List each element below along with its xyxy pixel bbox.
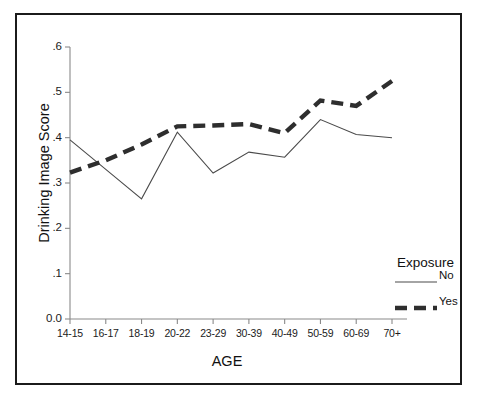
chart-figure: Drinking Image Score AGE 0.0.1.2.3.4.5.6… (15, 13, 462, 385)
legend-title: Exposure (397, 255, 465, 270)
legend-rows: NoYes (395, 270, 465, 322)
series-line-no (70, 120, 392, 199)
y-tick-label: .4 (24, 132, 62, 144)
series-group (70, 81, 392, 199)
y-tick-label: .6 (24, 41, 62, 53)
legend: Exposure NoYes (395, 255, 465, 322)
x-tick-label: 70+ (369, 327, 415, 339)
y-tick-label: .3 (24, 177, 62, 189)
legend-label: Yes (439, 295, 458, 307)
y-tick-label: .2 (24, 222, 62, 234)
legend-entry: No (395, 270, 465, 296)
y-tick-label: 0.0 (24, 313, 62, 325)
legend-entry: Yes (395, 296, 465, 322)
y-tick-label: .5 (24, 86, 62, 98)
series-line-yes (70, 81, 392, 173)
y-tick-label: .1 (24, 268, 62, 280)
solid-line-icon (395, 279, 437, 285)
axes-group (65, 47, 407, 324)
legend-label: No (439, 269, 454, 281)
dashed-line-icon (395, 305, 437, 311)
